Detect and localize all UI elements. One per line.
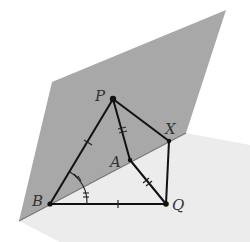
label-X: X: [164, 120, 177, 138]
label-P: P: [94, 87, 106, 105]
label-A: A: [108, 153, 121, 171]
point-X: [167, 139, 171, 143]
label-Q: Q: [172, 196, 184, 214]
geometry-diagram: P X A B Q: [0, 0, 250, 242]
point-Q: [163, 201, 169, 207]
label-B: B: [31, 192, 43, 210]
point-P: [110, 96, 116, 102]
point-A: [128, 158, 132, 162]
point-B: [47, 201, 52, 206]
